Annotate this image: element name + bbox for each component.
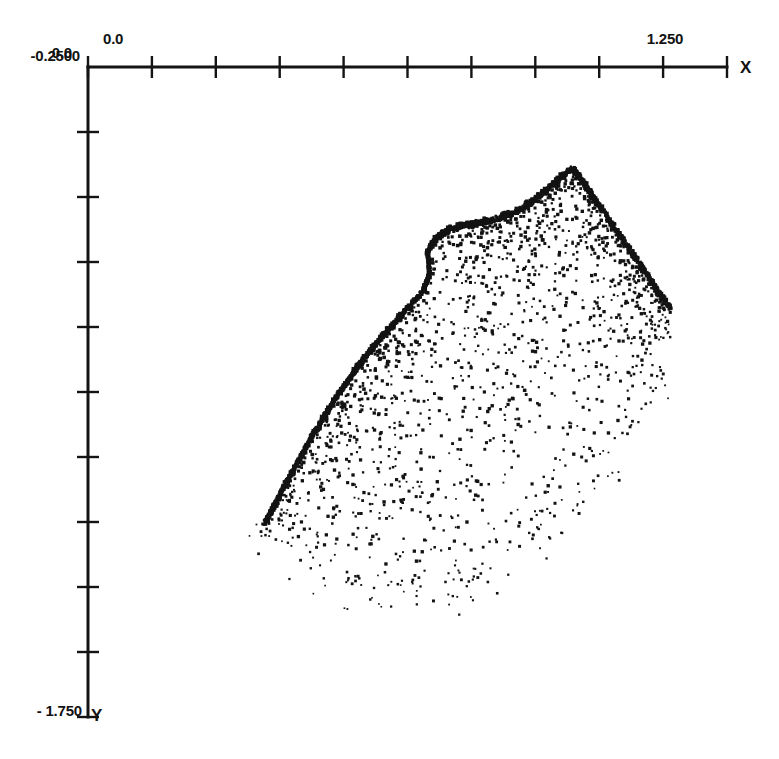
data-point — [451, 235, 454, 238]
data-point — [323, 577, 325, 579]
data-point — [475, 255, 478, 258]
data-point — [643, 308, 645, 310]
data-point — [414, 340, 417, 343]
data-point — [649, 311, 651, 313]
data-point — [473, 568, 475, 570]
data-point — [669, 336, 671, 338]
data-point — [387, 584, 389, 586]
data-point — [497, 351, 499, 353]
data-point — [360, 512, 363, 515]
data-point — [545, 208, 549, 212]
data-point — [544, 491, 547, 494]
data-point — [565, 244, 568, 247]
data-point — [510, 466, 513, 469]
data-point — [396, 318, 398, 320]
data-point — [297, 462, 299, 464]
data-point — [323, 497, 325, 499]
data-point — [447, 572, 449, 574]
data-point — [329, 439, 332, 442]
data-point — [454, 388, 456, 390]
data-point — [631, 299, 634, 302]
data-point — [441, 241, 443, 243]
data-point — [567, 343, 570, 346]
data-point — [406, 376, 409, 379]
data-point — [494, 219, 497, 222]
data-point — [381, 379, 384, 382]
data-point — [631, 251, 634, 254]
data-point — [398, 451, 401, 454]
data-point — [401, 392, 404, 395]
data-point — [447, 594, 449, 596]
data-point — [395, 346, 398, 349]
data-point — [317, 535, 319, 537]
data-point — [395, 478, 398, 481]
data-point — [627, 336, 630, 339]
data-point — [459, 270, 462, 273]
data-point — [620, 280, 623, 283]
data-point — [440, 434, 443, 437]
data-point — [419, 495, 422, 498]
data-point — [321, 462, 324, 465]
data-point — [551, 477, 554, 480]
data-point — [509, 540, 512, 543]
data-point — [597, 279, 599, 281]
data-point — [587, 375, 590, 378]
data-point — [347, 432, 349, 434]
data-point — [614, 285, 617, 288]
data-point — [378, 471, 381, 474]
data-point — [638, 275, 641, 278]
data-point — [488, 523, 490, 525]
data-point — [448, 452, 450, 454]
data-point — [417, 481, 419, 483]
data-point — [298, 465, 301, 468]
data-point — [371, 503, 373, 505]
data-point — [517, 294, 520, 297]
data-point — [411, 508, 414, 511]
data-point — [481, 563, 483, 565]
data-point — [461, 239, 464, 242]
data-point — [456, 596, 458, 598]
data-point — [375, 494, 377, 496]
data-point — [457, 526, 460, 529]
data-point — [568, 354, 570, 356]
data-point — [427, 257, 430, 260]
data-point — [586, 187, 590, 191]
data-point — [507, 323, 509, 325]
data-point — [599, 214, 601, 216]
data-point — [366, 364, 369, 367]
data-point — [627, 390, 629, 392]
data-point — [576, 251, 579, 254]
data-point — [346, 393, 349, 396]
data-point — [399, 486, 401, 488]
data-point — [531, 339, 534, 342]
data-point — [562, 274, 565, 277]
data-point — [453, 228, 456, 231]
data-point — [624, 329, 627, 332]
data-point — [618, 261, 621, 264]
data-point — [590, 274, 593, 277]
data-point — [370, 510, 372, 512]
data-point — [491, 404, 494, 407]
data-point — [369, 556, 371, 558]
data-point — [415, 311, 417, 313]
data-point — [454, 279, 457, 282]
data-point — [643, 270, 646, 273]
data-point — [536, 346, 539, 349]
data-point — [316, 458, 319, 461]
data-point — [564, 189, 567, 192]
data-point — [627, 261, 630, 264]
data-point — [308, 471, 311, 474]
data-point — [618, 479, 621, 482]
data-point — [445, 276, 447, 278]
data-point — [430, 549, 432, 551]
data-point — [514, 207, 518, 211]
data-point — [373, 486, 375, 488]
data-point — [288, 478, 291, 481]
data-point — [560, 203, 563, 206]
data-point — [375, 533, 377, 535]
data-point — [359, 399, 361, 401]
data-point — [315, 471, 317, 473]
data-point — [501, 216, 503, 218]
data-point — [554, 263, 556, 265]
data-point — [577, 503, 579, 505]
